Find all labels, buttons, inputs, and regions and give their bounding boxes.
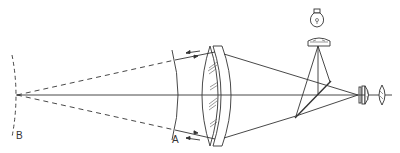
ray-upper-converge xyxy=(224,54,358,95)
optical-diagram xyxy=(0,0,400,153)
dashed-ray-upper xyxy=(17,60,175,95)
arrowhead-icon xyxy=(186,137,190,140)
arrowhead-icon xyxy=(194,55,198,58)
condenser-lens xyxy=(308,38,330,46)
arrowhead-icon xyxy=(186,51,190,54)
ray-lower-converge xyxy=(224,116,296,138)
dashed-arc-b xyxy=(12,55,16,137)
ray-lower-converge-2 xyxy=(296,95,358,116)
dashed-ray-lower xyxy=(17,95,175,130)
objective-lens xyxy=(202,46,231,146)
light-bulb-icon xyxy=(310,9,323,27)
beam-splitter xyxy=(295,81,331,118)
label-b: B xyxy=(16,131,23,141)
arrowhead-icon xyxy=(194,131,198,134)
label-a: A xyxy=(172,135,179,145)
illum-ray-right xyxy=(318,46,330,82)
